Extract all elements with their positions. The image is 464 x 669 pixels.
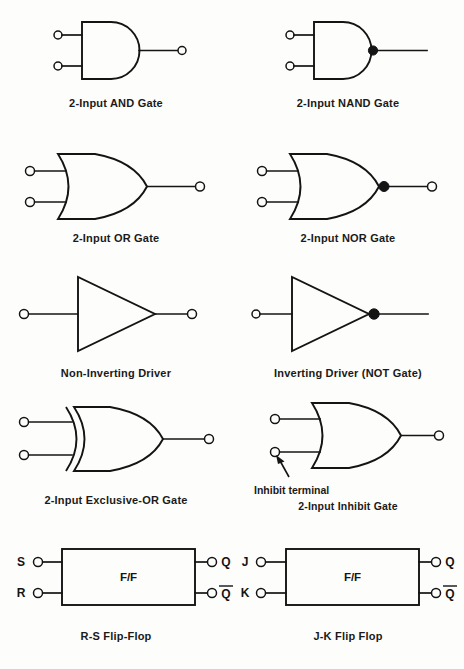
input-terminal [286, 31, 294, 39]
non-inverting-driver-caption: Non-Inverting Driver [0, 367, 232, 379]
inhibit-annotation-arrowhead [276, 455, 285, 464]
output-terminal [196, 182, 205, 191]
or-body [290, 154, 379, 219]
inhibit-gate-drawing [232, 394, 464, 482]
symbol-cell-inverting-driver: Inverting Driver (NOT Gate) [232, 272, 464, 379]
input-terminal [257, 558, 266, 567]
nor-gate-drawing [232, 148, 464, 224]
buffer-triangle [292, 277, 369, 351]
input-terminal [20, 310, 29, 319]
inverting-driver-drawing [232, 272, 464, 356]
output-terminal [432, 558, 441, 567]
logic-symbols-sheet: 2-Input AND Gate 2-Input NAND Gate [0, 0, 464, 669]
non-inverting-driver-drawing [0, 272, 232, 356]
exclusive-or-gate-drawing [0, 400, 232, 480]
ff-output-label-q: Q [445, 555, 454, 569]
and-gate-caption: 2-Input AND Gate [0, 97, 232, 109]
ff-input-label-r: R [17, 586, 26, 600]
output-terminal [208, 589, 217, 598]
input-terminal [20, 418, 29, 427]
output-terminal [205, 435, 214, 444]
output-terminal [188, 310, 197, 319]
output-terminal [208, 558, 217, 567]
input-terminal [34, 589, 43, 598]
inverting-driver-caption: Inverting Driver (NOT Gate) [232, 367, 464, 379]
jk-flip-flop-caption: J-K Flip Flop [232, 630, 464, 642]
input-terminal [20, 451, 29, 460]
ff-output-label-qbar: Q [221, 587, 230, 601]
ff-input-label-k: K [241, 586, 250, 600]
or-body [312, 403, 401, 468]
nand-gate-caption: 2-Input NAND Gate [232, 97, 464, 109]
flip-flop-body-label: F/F [344, 571, 361, 583]
ff-input-label-j: J [242, 555, 249, 569]
input-terminal [54, 62, 62, 70]
and-gate-drawing [0, 18, 232, 90]
nand-gate-drawing [232, 18, 464, 90]
nor-gate-caption: 2-Input NOR Gate [232, 232, 464, 244]
output-terminal [435, 431, 444, 440]
xor-extra-arc [66, 407, 77, 471]
and-body [82, 22, 140, 79]
buffer-triangle [78, 277, 155, 351]
symbol-cell-and-gate: 2-Input AND Gate [0, 18, 232, 109]
output-terminal [432, 589, 441, 598]
input-terminal [34, 558, 43, 567]
input-terminal [26, 198, 35, 207]
ff-output-label-qbar: Q [445, 587, 454, 601]
rs-flip-flop-drawing: S R F/F Q Q [0, 540, 232, 612]
input-terminal [252, 310, 260, 318]
input-terminal [271, 415, 280, 424]
inversion-bubble-icon [379, 182, 389, 192]
symbol-cell-jk-flip-flop: J K F/F Q Q J-K Flip Flop [232, 540, 464, 642]
input-terminal [54, 31, 62, 39]
jk-flip-flop-drawing: J K F/F Q Q [232, 540, 464, 612]
input-terminal [26, 167, 35, 176]
flip-flop-body-label: F/F [120, 571, 137, 583]
symbol-cell-or-gate: 2-Input OR Gate [0, 148, 232, 244]
inhibit-terminal [271, 448, 280, 457]
input-terminal [258, 198, 267, 207]
ff-output-label-q: Q [221, 555, 230, 569]
or-body [58, 154, 147, 219]
or-gate-drawing [0, 148, 232, 224]
ff-input-label-s: S [17, 555, 25, 569]
inversion-bubble-icon [369, 309, 379, 319]
input-terminal [286, 62, 294, 70]
inhibit-terminal-annotation: Inhibit terminal [254, 484, 464, 496]
symbol-cell-exclusive-or-gate: 2-Input Exclusive-OR Gate [0, 400, 232, 506]
and-body [314, 22, 372, 79]
symbol-cell-non-inverting-driver: Non-Inverting Driver [0, 272, 232, 379]
inversion-bubble-icon [368, 46, 377, 55]
output-terminal [428, 182, 437, 191]
symbol-cell-rs-flip-flop: S R F/F Q Q R-S Flip-Flop [0, 540, 232, 642]
symbol-cell-inhibit-gate: Inhibit terminal 2-Input Inhibit Gate [232, 394, 464, 512]
inhibit-gate-caption: 2-Input Inhibit Gate [232, 500, 464, 512]
or-body [74, 407, 163, 471]
rs-flip-flop-caption: R-S Flip-Flop [0, 630, 232, 642]
symbol-cell-nand-gate: 2-Input NAND Gate [232, 18, 464, 109]
exclusive-or-gate-caption: 2-Input Exclusive-OR Gate [0, 494, 232, 506]
symbol-cell-nor-gate: 2-Input NOR Gate [232, 148, 464, 244]
output-terminal [178, 47, 186, 55]
input-terminal [258, 167, 267, 176]
or-gate-caption: 2-Input OR Gate [0, 232, 232, 244]
input-terminal [257, 589, 266, 598]
